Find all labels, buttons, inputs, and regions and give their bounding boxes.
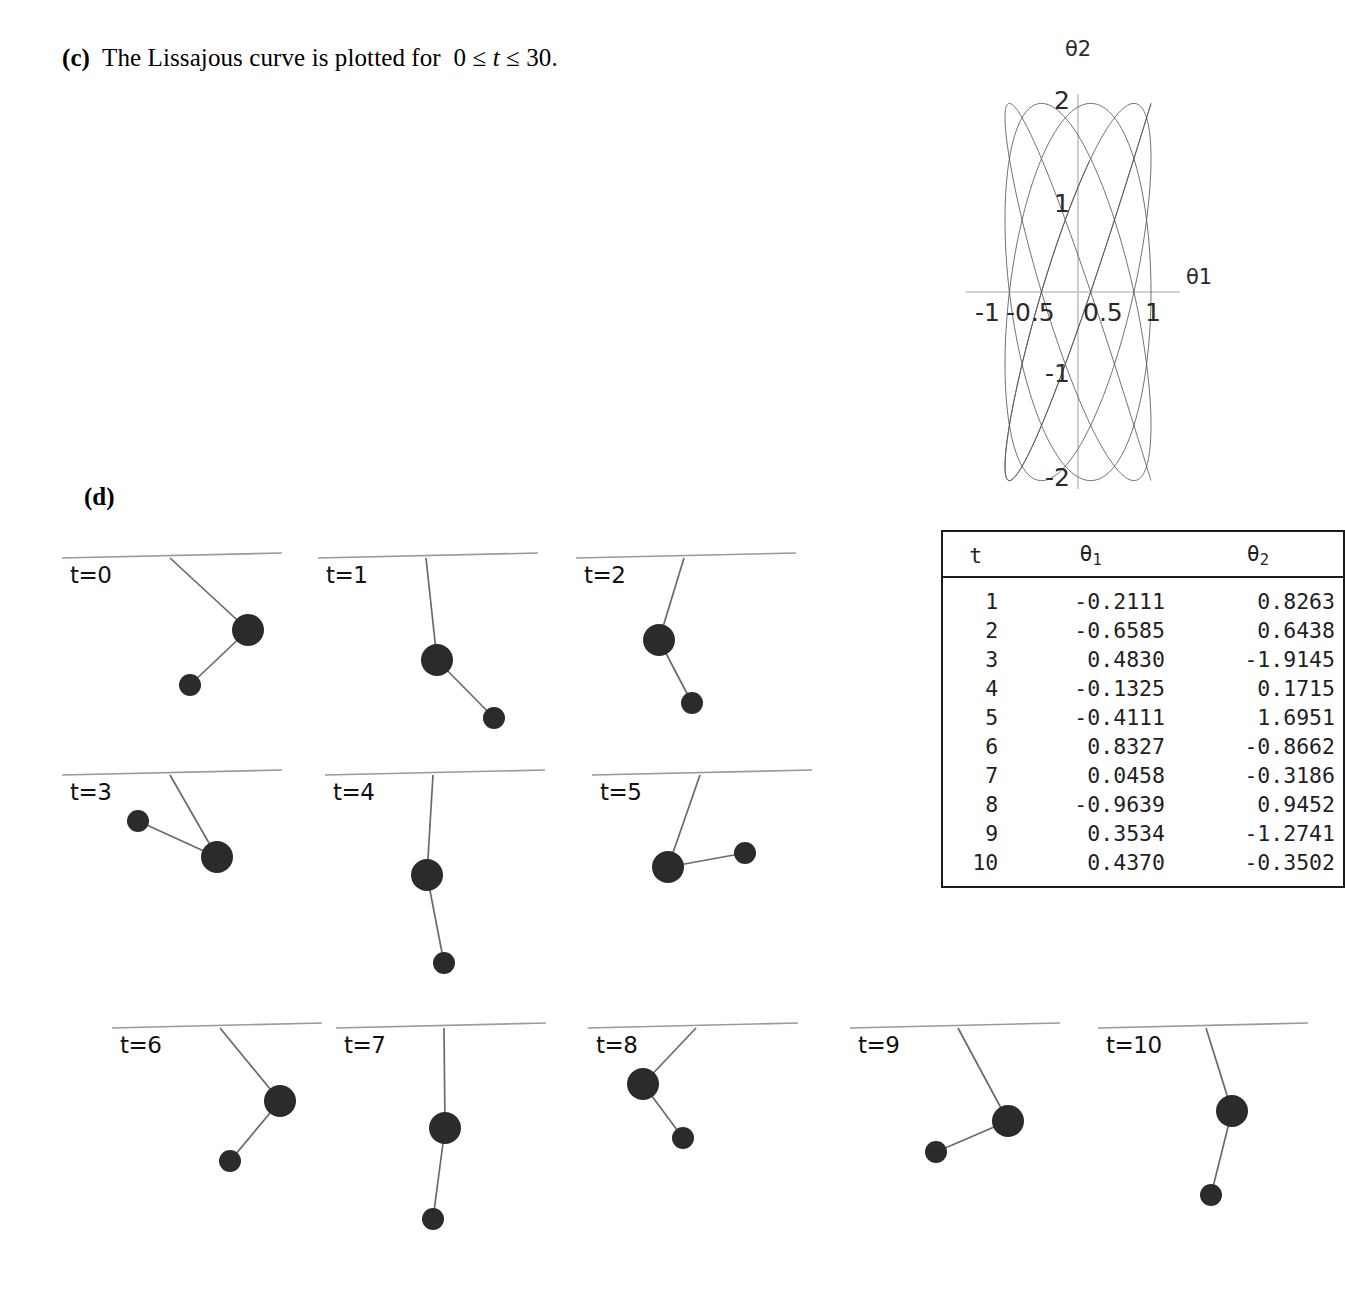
cell-theta2: -0.3186 xyxy=(1173,761,1343,790)
pendulum-panel-t3: t=3 xyxy=(62,757,322,987)
pendulum-svg-t4: t=4 xyxy=(325,757,585,987)
pendulum-time-label: t=4 xyxy=(333,779,374,805)
pendulum-svg-t2: t=2 xyxy=(576,540,836,755)
y-tick-2: 2 xyxy=(1054,86,1070,115)
pendulum-bob-2 xyxy=(734,842,756,864)
pendulum-time-label: t=10 xyxy=(1106,1032,1162,1058)
cell-t: 1 xyxy=(943,577,1008,616)
cell-t: 5 xyxy=(943,703,1008,732)
table-body: 1-0.2111 0.82632-0.6585 0.64383 0.4830-1… xyxy=(943,577,1343,886)
x-axis-label: θ1 xyxy=(1186,265,1212,289)
table-row: 3 0.4830-1.9145 xyxy=(943,645,1343,674)
pendulum-time-label: t=0 xyxy=(70,562,111,588)
pendulum-bob-2 xyxy=(925,1141,947,1163)
cell-theta1: -0.2111 xyxy=(1008,577,1173,616)
lissajous-svg: θ2 θ1 2 1 -1 -2 -1 -0.5 0.5 1 xyxy=(928,34,1228,524)
cell-t: 10 xyxy=(943,848,1008,886)
pendulum-svg-t1: t=1 xyxy=(318,540,578,755)
theta-table: t θ1 θ2 1-0.2111 0.82632-0.6585 0.64383 … xyxy=(943,532,1343,886)
table-row: 10 0.4370-0.3502 xyxy=(943,848,1343,886)
pendulum-svg-t10: t=10 xyxy=(1098,1010,1345,1250)
cell-theta2: 0.8263 xyxy=(1173,577,1343,616)
pendulum-panel-t6: t=6 xyxy=(112,1010,362,1250)
cell-theta1: -0.9639 xyxy=(1008,790,1173,819)
column-header-theta1: θ1 xyxy=(1008,532,1173,577)
table-header-row: t θ1 θ2 xyxy=(943,532,1343,577)
ceiling-line xyxy=(62,553,282,558)
table-row: 7 0.0458-0.3186 xyxy=(943,761,1343,790)
pendulum-bob-1 xyxy=(627,1068,659,1100)
pendulum-panel-t7: t=7 xyxy=(336,1010,586,1250)
pendulum-time-label: t=9 xyxy=(858,1032,899,1058)
pendulum-bob-1 xyxy=(264,1085,296,1117)
pendulum-bob-1 xyxy=(201,841,233,873)
ceiling-line xyxy=(588,1023,798,1028)
pendulum-panel-t8: t=8 xyxy=(588,1010,838,1250)
pendulum-bob-2 xyxy=(219,1150,241,1172)
cell-theta1: 0.4830 xyxy=(1008,645,1173,674)
pendulum-bob-2 xyxy=(179,674,201,696)
ceiling-line xyxy=(850,1023,1060,1028)
pendulum-panel-t0: t=0 xyxy=(62,540,322,755)
cell-theta2: 0.1715 xyxy=(1173,674,1343,703)
cell-theta1: 0.0458 xyxy=(1008,761,1173,790)
part-c-text: The Lissajous curve is plotted for xyxy=(102,44,441,71)
figure-page: (c)The Lissajous curve is plotted for 0 … xyxy=(0,0,1345,1315)
theta-table-container: t θ1 θ2 1-0.2111 0.82632-0.6585 0.64383 … xyxy=(941,530,1345,888)
cell-theta1: -0.1325 xyxy=(1008,674,1173,703)
pendulum-svg-t5: t=5 xyxy=(592,757,852,987)
ceiling-line xyxy=(325,770,545,775)
y-axis-label: θ2 xyxy=(1065,37,1091,61)
pendulum-time-label: t=5 xyxy=(600,779,641,805)
cell-theta2: -1.9145 xyxy=(1173,645,1343,674)
table-row: 1-0.2111 0.8263 xyxy=(943,577,1343,616)
ceiling-line xyxy=(576,553,796,558)
table-row: 6 0.8327-0.8662 xyxy=(943,732,1343,761)
pendulum-time-label: t=1 xyxy=(326,562,367,588)
table-row: 5-0.4111 1.6951 xyxy=(943,703,1343,732)
cell-theta1: -0.6585 xyxy=(1008,616,1173,645)
pendulum-panel-t5: t=5 xyxy=(592,757,852,987)
cell-theta2: -0.8662 xyxy=(1173,732,1343,761)
y-tick-1: 1 xyxy=(1054,189,1070,218)
cell-theta1: 0.8327 xyxy=(1008,732,1173,761)
cell-theta2: 0.9452 xyxy=(1173,790,1343,819)
table-row: 9 0.3534-1.2741 xyxy=(943,819,1343,848)
part-c-inequality: 0 ≤ t ≤ 30. xyxy=(447,44,558,71)
cell-t: 7 xyxy=(943,761,1008,790)
pendulum-panel-t2: t=2 xyxy=(576,540,836,755)
table-header: t θ1 θ2 xyxy=(943,532,1343,577)
x-tick-neg1: -1 xyxy=(975,298,1000,327)
pendulum-bob-1 xyxy=(992,1105,1024,1137)
cell-t: 6 xyxy=(943,732,1008,761)
pendulum-svg-t3: t=3 xyxy=(62,757,322,987)
ceiling-line xyxy=(112,1023,322,1028)
cell-theta1: 0.4370 xyxy=(1008,848,1173,886)
ceiling-line xyxy=(1098,1023,1308,1028)
pendulum-panel-t9: t=9 xyxy=(850,1010,1100,1250)
pendulum-bob-2 xyxy=(433,952,455,974)
part-d-label: (d) xyxy=(84,483,115,511)
pendulum-time-label: t=8 xyxy=(596,1032,637,1058)
pendulum-time-label: t=6 xyxy=(120,1032,161,1058)
pendulum-svg-t8: t=8 xyxy=(588,1010,838,1250)
pendulum-panel-t1: t=1 xyxy=(318,540,578,755)
pendulum-bob-1 xyxy=(643,624,675,656)
pendulum-panel-t10: t=10 xyxy=(1098,1010,1345,1250)
y-tick-neg1: -1 xyxy=(1045,359,1070,388)
cell-theta2: -1.2741 xyxy=(1173,819,1343,848)
pendulum-svg-t7: t=7 xyxy=(336,1010,586,1250)
pendulum-svg-t9: t=9 xyxy=(850,1010,1100,1250)
pendulum-time-label: t=3 xyxy=(70,779,111,805)
cell-theta2: -0.3502 xyxy=(1173,848,1343,886)
table-row: 2-0.6585 0.6438 xyxy=(943,616,1343,645)
part-c-caption: (c)The Lissajous curve is plotted for 0 … xyxy=(62,44,558,72)
pendulum-bob-1 xyxy=(429,1112,461,1144)
table-row: 4-0.1325 0.1715 xyxy=(943,674,1343,703)
pendulum-bob-2 xyxy=(422,1208,444,1230)
y-tick-neg2: -2 xyxy=(1045,463,1070,492)
cell-t: 3 xyxy=(943,645,1008,674)
lissajous-plot: θ2 θ1 2 1 -1 -2 -1 -0.5 0.5 1 xyxy=(928,34,1228,514)
ceiling-line xyxy=(592,770,812,775)
cell-theta1: 0.3534 xyxy=(1008,819,1173,848)
